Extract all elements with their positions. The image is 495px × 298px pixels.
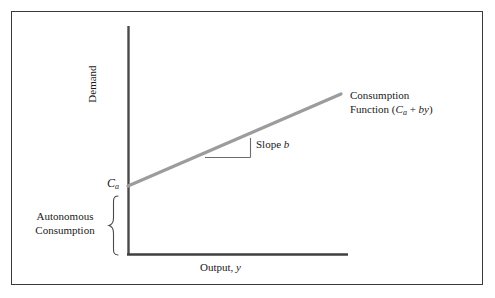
function-label-symbol: C [396,103,403,115]
function-label-line2-prefix: Function ( [350,103,396,115]
autonomous-label-line2: Consumption [35,224,94,236]
intercept-subscript: a [115,182,119,191]
slope-variable: b [284,138,290,150]
function-label-operator: + [407,103,419,115]
slope-label: Slope b [256,138,289,151]
autonomous-consumption-label: Autonomous Consumption [26,209,104,237]
autonomous-consumption-brace-icon [109,196,118,255]
x-axis-label: Output, y [200,261,241,274]
y-axis-label: Demand [86,44,99,124]
intercept-label: Ca [107,177,119,193]
consumption-function-line [128,94,341,186]
function-label-suffix: ) [429,103,433,115]
consumption-function-figure: Demand Output, y Ca Slope b Consumption … [0,0,495,298]
plot-area [0,0,495,298]
intercept-symbol: C [107,176,115,190]
autonomous-label-line1: Autonomous [37,210,94,222]
consumption-function-label: Consumption Function (Ca + by) [350,88,482,120]
x-axis-variable: y [236,261,241,273]
function-label-line1: Consumption [350,89,409,101]
